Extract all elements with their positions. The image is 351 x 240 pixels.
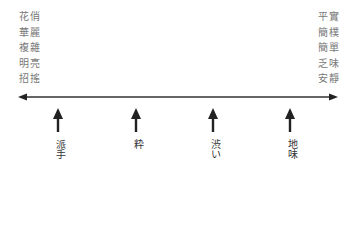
double-arrow-axis-icon bbox=[18, 94, 338, 101]
up-arrow-icon bbox=[131, 108, 141, 132]
up-arrow-icon bbox=[53, 108, 63, 132]
marker-label-shibui: 渋い bbox=[208, 139, 220, 159]
up-arrow-icon bbox=[208, 108, 218, 132]
marker-label-jimi: 地味 bbox=[285, 139, 297, 159]
up-arrow-icon bbox=[285, 108, 295, 132]
marker-label-hade: 派手 bbox=[53, 139, 65, 159]
marker-label-iki: 粋 bbox=[131, 139, 143, 149]
